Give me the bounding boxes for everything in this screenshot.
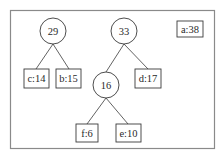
node-label: 16: [101, 80, 112, 91]
leaf-label: c:14: [27, 73, 46, 84]
leaf-node-c: c:14: [24, 69, 49, 88]
internal-node-33: 33: [111, 18, 137, 44]
leaf-node-e: e:10: [116, 124, 141, 142]
internal-node-16: 16: [93, 72, 119, 98]
node-label: 33: [119, 26, 130, 37]
node-label: 29: [48, 26, 59, 37]
leaf-label: e:10: [119, 128, 137, 139]
leaf-label: a:38: [181, 24, 199, 35]
leaf-label: d:17: [139, 73, 158, 84]
huffman-forest-diagram: 29 33 16 c:14 b:15 d:17 f:6 e:10 a:38: [0, 0, 217, 155]
leaf-node-b: b:15: [56, 69, 81, 88]
leaf-label: f:6: [81, 128, 93, 139]
leaf-label: b:15: [59, 73, 78, 84]
leaf-node-f: f:6: [76, 124, 98, 142]
leaf-node-d: d:17: [135, 69, 161, 88]
leaf-node-a: a:38: [177, 21, 203, 37]
internal-node-29: 29: [40, 18, 66, 44]
